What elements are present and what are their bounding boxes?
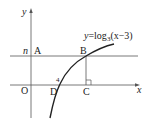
right-angle-marker bbox=[86, 80, 91, 85]
equation-log: =log bbox=[88, 30, 106, 41]
point-b-label: B bbox=[80, 45, 87, 56]
curve-equation: y=log3(x−3) bbox=[83, 30, 133, 43]
equation-arg: (x−3) bbox=[110, 30, 132, 42]
log-graph-diagram: y x O n A B C D 4 y=log3(x−3) bbox=[0, 0, 151, 126]
point-d-label: D bbox=[50, 86, 57, 97]
point-a-label: A bbox=[34, 45, 42, 56]
level-n-label: n bbox=[23, 45, 28, 56]
y-axis-label: y bbox=[21, 6, 27, 17]
y-axis-arrow-icon bbox=[29, 8, 32, 13]
x-axis-label: x bbox=[136, 84, 142, 95]
tick-4-label: 4 bbox=[56, 76, 60, 84]
origin-label: O bbox=[21, 85, 28, 96]
svg-text:y=log3(x−3): y=log3(x−3) bbox=[83, 30, 133, 43]
point-c-label: C bbox=[83, 86, 90, 97]
